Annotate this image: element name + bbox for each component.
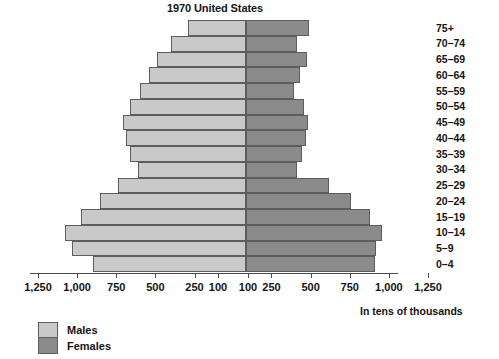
x-tick-right-100: [248, 273, 249, 278]
bar-female-65-69: [246, 52, 307, 68]
bar-female-40-44: [246, 130, 306, 146]
bar-male-20-24: [100, 193, 246, 209]
x-tick-right-250: [271, 273, 272, 278]
x-tick-left-750: [116, 273, 117, 278]
bar-female-10-14: [246, 225, 382, 241]
pyramid-row: [0, 241, 430, 257]
bar-female-35-39: [246, 146, 302, 162]
x-tick-label-right-500: 500: [301, 281, 319, 293]
x-tick-label-left-100: 100: [209, 281, 227, 293]
bar-female-15-19: [246, 209, 370, 225]
x-tick-label-right-1000: 1,000: [375, 281, 403, 293]
x-tick-label-left-1000: 1,000: [63, 281, 91, 293]
pyramid-row: [0, 99, 430, 115]
bar-male-50-54: [130, 99, 246, 115]
age-label-15-19: 15–19: [436, 211, 494, 223]
legend-label-males: Males: [67, 322, 98, 338]
x-axis-line: [30, 273, 398, 274]
x-tick-right-750: [350, 273, 351, 278]
pyramid-row: [0, 115, 430, 131]
age-label-75plus: 75+: [436, 22, 494, 34]
pyramid-row: [0, 193, 430, 209]
pyramid-row: [0, 146, 430, 162]
x-tick-left-500: [155, 273, 156, 278]
x-axis-caption: In tens of thousands: [360, 305, 463, 317]
bar-male-5-9: [72, 241, 246, 257]
pyramid-row: [0, 256, 430, 272]
age-label-65-69: 65–69: [436, 53, 494, 65]
pyramid-row: [0, 20, 430, 36]
bar-female-70-74: [246, 36, 297, 52]
bar-male-65-69: [157, 52, 246, 68]
bar-male-55-59: [140, 83, 246, 99]
pyramid-row: [0, 67, 430, 83]
x-tick-right-500: [311, 273, 312, 278]
pyramid-row: [0, 130, 430, 146]
age-label-55-59: 55–59: [436, 85, 494, 97]
bar-female-5-9: [246, 241, 376, 257]
x-tick-right-1000: [389, 273, 390, 278]
legend-item-females: Females: [38, 338, 111, 354]
bar-female-20-24: [246, 193, 351, 209]
x-tick-label-left-750: 750: [107, 281, 125, 293]
age-label-30-34: 30–34: [436, 163, 494, 175]
x-tick-label-right-750: 750: [341, 281, 359, 293]
bar-male-45-49: [123, 115, 246, 131]
bar-male-40-44: [126, 130, 246, 146]
age-label-10-14: 10–14: [436, 226, 494, 238]
chart-title: 1970 United States: [0, 2, 430, 14]
pyramid-row: [0, 83, 430, 99]
plot-area: [0, 20, 430, 272]
bar-female-0-4: [246, 256, 375, 272]
pyramid-row: [0, 225, 430, 241]
x-tick-right-1250: [428, 273, 429, 278]
bar-female-55-59: [246, 83, 294, 99]
age-label-50-54: 50–54: [436, 100, 494, 112]
bar-female-25-29: [246, 178, 329, 194]
pyramid-row: [0, 209, 430, 225]
bar-male-25-29: [118, 178, 246, 194]
x-tick-label-left-250: 250: [185, 281, 203, 293]
legend-swatch-females-icon: [38, 338, 58, 354]
age-label-5-9: 5–9: [436, 242, 494, 254]
chart-legend: Males Females: [38, 322, 111, 354]
bar-male-35-39: [130, 146, 246, 162]
bar-female-30-34: [246, 162, 297, 178]
x-tick-left-100: [218, 273, 219, 278]
age-label-20-24: 20–24: [436, 195, 494, 207]
bar-male-10-14: [65, 225, 246, 241]
bar-male-0-4: [93, 256, 246, 272]
age-label-45-49: 45–49: [436, 116, 494, 128]
x-tick-label-right-100: 100: [239, 281, 257, 293]
legend-label-females: Females: [67, 338, 111, 354]
bar-female-50-54: [246, 99, 304, 115]
x-tick-left-250: [195, 273, 196, 278]
age-label-70-74: 70–74: [436, 37, 494, 49]
population-pyramid-chart: 1970 United States 1,2501,00075050025010…: [0, 0, 499, 359]
x-tick-label-left-1250: 1,250: [24, 281, 52, 293]
pyramid-row: [0, 52, 430, 68]
age-label-35-39: 35–39: [436, 148, 494, 160]
bar-male-75plus: [188, 20, 246, 36]
legend-swatch-males-icon: [38, 322, 58, 338]
bar-male-15-19: [81, 209, 246, 225]
pyramid-row: [0, 36, 430, 52]
bar-female-75plus: [246, 20, 309, 36]
bar-female-45-49: [246, 115, 308, 131]
age-label-60-64: 60–64: [436, 69, 494, 81]
bar-male-60-64: [149, 67, 246, 83]
age-label-25-29: 25–29: [436, 179, 494, 191]
x-tick-label-right-1250: 1,250: [414, 281, 442, 293]
x-tick-left-1000: [77, 273, 78, 278]
age-label-0-4: 0–4: [436, 258, 494, 270]
pyramid-row: [0, 178, 430, 194]
x-tick-label-right-250: 250: [262, 281, 280, 293]
bar-male-30-34: [138, 162, 246, 178]
age-label-40-44: 40–44: [436, 132, 494, 144]
x-tick-left-1250: [38, 273, 39, 278]
pyramid-row: [0, 162, 430, 178]
bar-male-70-74: [171, 36, 246, 52]
x-tick-label-left-500: 500: [146, 281, 164, 293]
legend-item-males: Males: [38, 322, 111, 338]
bar-female-60-64: [246, 67, 300, 83]
